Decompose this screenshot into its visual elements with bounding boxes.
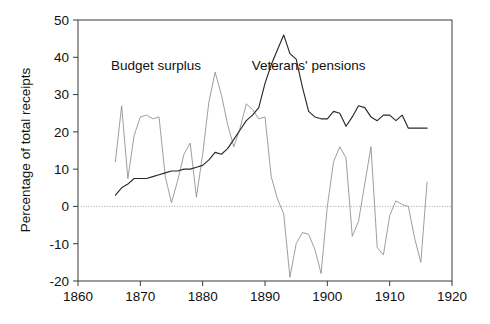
x-axis: 1860187018801890190019101920 (63, 281, 467, 304)
y-tick-label: 50 (54, 13, 69, 28)
y-tick-label: -10 (49, 237, 69, 252)
y-tick-label: 40 (54, 50, 69, 65)
y-tick-label: 20 (54, 125, 69, 140)
y-tick-label: 0 (61, 199, 69, 214)
y-tick-label: 10 (54, 162, 69, 177)
x-tick-label: 1920 (437, 289, 467, 304)
series-line-budget-surplus (115, 72, 427, 277)
line-chart: -20-1001020304050 1860187018801890190019… (0, 0, 490, 324)
x-tick-label: 1870 (125, 289, 155, 304)
y-axis: -20-1001020304050 (49, 13, 78, 289)
annotation-veterans-pensions: Veterans' pensions (252, 58, 366, 73)
annotation-budget-surplus: Budget surplus (111, 58, 201, 73)
x-tick-label: 1890 (250, 289, 280, 304)
y-tick-label: -20 (49, 274, 69, 289)
x-tick-label: 1860 (63, 289, 93, 304)
chart-figure: -20-1001020304050 1860187018801890190019… (0, 0, 490, 324)
x-tick-label: 1880 (188, 289, 218, 304)
series-annotations: Budget surplusVeterans' pensions (111, 58, 366, 73)
y-tick-label: 30 (54, 87, 69, 102)
x-tick-label: 1910 (375, 289, 405, 304)
y-axis-title: Percentage of total receipts (18, 68, 33, 233)
x-tick-label: 1900 (312, 289, 342, 304)
